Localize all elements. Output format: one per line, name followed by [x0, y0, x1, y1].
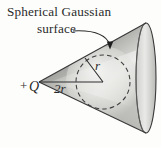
cone-shading: [39, 21, 148, 136]
cone-solid: [39, 21, 156, 136]
charge-sign-label: +: [20, 78, 27, 94]
figure-drawing: [0, 0, 161, 147]
radius-label: r: [95, 58, 100, 74]
spherical-gaussian-surface-figure: Spherical Gaussian surface + Q 2r r: [0, 0, 161, 147]
caption-line-2: surface: [37, 21, 76, 37]
caption-line-1: Spherical Gaussian: [7, 4, 111, 20]
charge-symbol-label: Q: [29, 79, 39, 95]
diameter-label: 2r: [54, 81, 66, 97]
